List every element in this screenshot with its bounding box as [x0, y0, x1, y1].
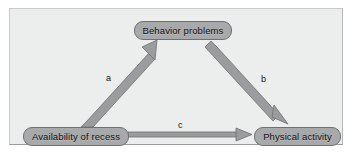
edge-path-c-arrowhead [236, 128, 252, 141]
edge-path-b-arrowhead [272, 105, 288, 124]
edge-path-c-shaft [128, 132, 238, 137]
edge-label-a: a [106, 74, 111, 83]
edge-path-a-shaft [81, 53, 155, 127]
edge-path-b [205, 41, 288, 124]
edge-path-a [81, 40, 157, 127]
node-behavior-problems[interactable]: Behavior problems [134, 21, 232, 40]
edge-path-b-shaft [205, 41, 279, 121]
diagram-root: Behavior problems Availability of recess… [0, 0, 353, 161]
edge-label-c: c [178, 121, 183, 130]
edge-path-c [128, 128, 252, 141]
node-availability-of-recess-label: Availability of recess [32, 132, 120, 142]
node-behavior-problems-label: Behavior problems [143, 26, 224, 36]
node-availability-of-recess[interactable]: Availability of recess [23, 127, 129, 146]
node-physical-activity[interactable]: Physical activity [254, 127, 341, 146]
node-physical-activity-label: Physical activity [263, 132, 332, 142]
diagram-panel: Behavior problems Availability of recess… [9, 8, 343, 145]
edge-label-b: b [261, 75, 266, 84]
